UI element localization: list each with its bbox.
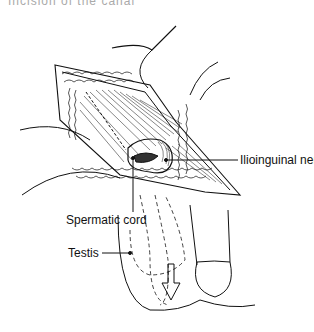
label-testis: Testis [68, 246, 99, 260]
label-spermatic-cord: Spermatic cord [66, 213, 147, 227]
label-ilioinguinal-nerve: Ilioinguinal nerve [240, 153, 314, 167]
